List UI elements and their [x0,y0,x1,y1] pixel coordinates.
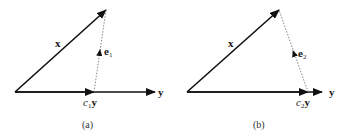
vector-x-arrow [187,10,279,92]
error-e1-arrowhead [99,50,100,58]
label-c1y: c1y [83,96,97,110]
label-y: y [329,86,335,98]
error-e2-dotted-line [279,10,308,92]
label-x: x [228,37,234,49]
label-e1: e1 [104,45,113,59]
caption-a: (a) [82,119,93,131]
label-x: x [55,37,61,49]
label-c2y: c2y [296,96,310,110]
vector-projection-diagram: x e1 y c1y (a) x e2 y c2y (b) [0,0,352,135]
caption-b: (b) [253,119,265,131]
label-e2: e2 [298,47,307,61]
vector-x-arrow [15,10,106,92]
panel-b: x e2 y c2y (b) [187,10,335,131]
panel-a: x e1 y c1y (a) [15,10,164,131]
label-y: y [158,86,164,98]
